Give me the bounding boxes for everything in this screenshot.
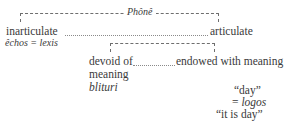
node-articulate: articulate <box>210 25 253 37</box>
example-day: “day” <box>234 84 261 96</box>
top-bracket <box>20 13 219 22</box>
equals-sign: = <box>232 96 241 108</box>
node-devoid-of: devoid of <box>89 55 133 67</box>
leader-level1 <box>65 35 208 36</box>
node-inarticulate: inarticulate <box>6 25 58 37</box>
example-logos: = logos <box>232 96 266 108</box>
node-endowed-with-meaning: endowed with meaning <box>176 55 283 67</box>
diagram-canvas: Phônê inarticulate articulate êchos = le… <box>0 0 296 122</box>
gloss-echos-lexis: êchos = lexis <box>5 38 58 49</box>
node-devoid-of-meaning-line2: meaning <box>89 68 129 80</box>
example-logos-term: logos <box>241 96 266 108</box>
leader-level2 <box>133 65 175 66</box>
example-it-is-day: “it is day” <box>216 108 263 120</box>
second-bracket <box>110 43 215 52</box>
apex-label-phone: Phônê <box>124 7 156 18</box>
example-blituri: blituri <box>89 81 118 93</box>
